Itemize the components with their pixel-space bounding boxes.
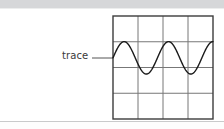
figure-root: trace (0, 0, 224, 129)
oscilloscope-display (0, 0, 224, 129)
footer-band (0, 122, 224, 129)
